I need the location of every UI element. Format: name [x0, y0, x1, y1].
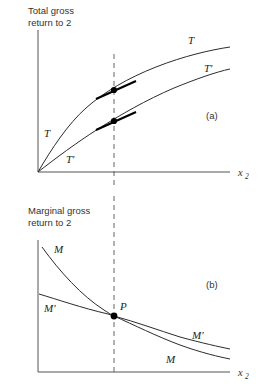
- panel-a-x-axis-label-subscript: 2: [245, 172, 249, 181]
- economics-figure-svg: Total gross return to 2 x 2 T T' T T' (a…: [0, 0, 266, 390]
- panel-a-tag: (a): [206, 110, 218, 121]
- panel-a-y-axis-label-line2: return to 2: [28, 17, 71, 28]
- panel-a-label-T-left: T: [44, 127, 51, 139]
- panel-b-x-axis-label-subscript: 2: [245, 372, 249, 381]
- panel-a-label-T-right: T: [188, 34, 195, 46]
- panel-b-intersection-point-P: [111, 313, 118, 320]
- panel-a-label-T-prime-right: T': [204, 62, 213, 74]
- panel-b-y-axis-label-line2: return to 2: [28, 217, 71, 228]
- panel-b-point-label-P: P: [119, 300, 127, 312]
- panel-b-label-M-prime-right: M': [191, 329, 204, 341]
- panel-b-x-axis-label: x: [237, 367, 243, 378]
- panel-a-x-axis-label: x: [237, 167, 243, 178]
- panel-a-point-on-T-prime: [111, 118, 117, 124]
- figure-root: Total gross return to 2 x 2 T T' T T' (a…: [0, 0, 266, 390]
- panel-b-y-axis-label-line1: Marginal gross: [28, 205, 91, 216]
- panel-a-y-axis-label-line1: Total gross: [28, 5, 74, 16]
- panel-a-label-T-prime-left: T': [66, 153, 75, 165]
- panel-b-label-M-right: M: [165, 353, 176, 365]
- panel-a-point-on-T: [111, 87, 117, 93]
- panel-b-tag: (b): [206, 279, 218, 290]
- panel-b-label-M-prime-left: M': [43, 302, 56, 314]
- panel-b-label-M-left: M: [53, 243, 64, 255]
- panel-b: Marginal gross return to 2 x 2 M M' M' M…: [28, 205, 249, 381]
- panel-a: Total gross return to 2 x 2 T T' T T' (a…: [28, 5, 249, 181]
